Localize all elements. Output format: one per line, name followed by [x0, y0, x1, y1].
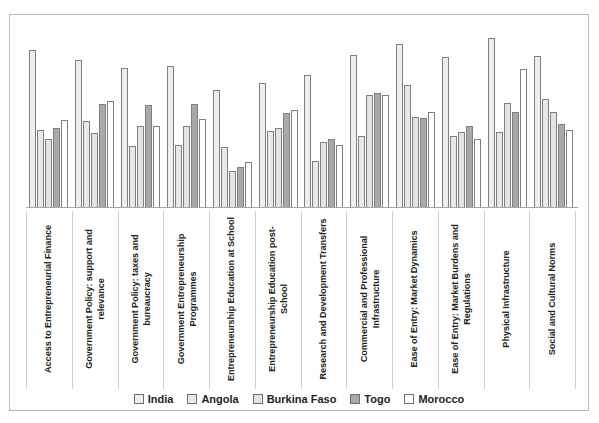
- bar: [420, 118, 427, 208]
- bar: [83, 121, 90, 208]
- category-label: Ease of Entry: Market Burdens and Regula…: [450, 213, 473, 385]
- bar: [474, 139, 481, 208]
- plot-area: [26, 29, 576, 208]
- bar: [45, 139, 52, 208]
- legend-item[interactable]: Morocco: [404, 393, 464, 405]
- bar: [404, 85, 411, 208]
- bar-group: [301, 29, 347, 208]
- category-tick: Research and Development Transfers: [301, 211, 347, 389]
- legend-label: India: [148, 393, 174, 405]
- bar: [37, 130, 44, 208]
- bar: [450, 136, 457, 208]
- bar: [396, 44, 403, 208]
- bar: [350, 55, 357, 208]
- bar-group: [163, 29, 209, 208]
- legend-item[interactable]: Togo: [350, 393, 390, 405]
- bar: [512, 112, 519, 208]
- bar-group: [118, 29, 164, 208]
- bar: [312, 161, 319, 208]
- bar: [53, 128, 60, 208]
- category-label: Research and Development Transfers: [318, 213, 330, 385]
- category-tick: Entrepreneurship Education at School: [209, 211, 255, 389]
- bar: [99, 104, 106, 208]
- bar: [191, 104, 198, 208]
- bar: [458, 132, 465, 208]
- bar-group: [484, 29, 530, 208]
- category-tick: Social and Cultural Norms: [529, 211, 576, 389]
- bar: [320, 142, 327, 208]
- category-label: Government Entrepreneurship Programmes: [175, 213, 198, 385]
- category-tick: Ease of Entry: Market Burdens and Regula…: [438, 211, 484, 389]
- bar-group: [438, 29, 484, 208]
- bar: [504, 103, 511, 208]
- category-label: Commercial and Professional Infrastructu…: [358, 213, 381, 385]
- bar: [358, 136, 365, 208]
- bar: [328, 139, 335, 208]
- bar: [291, 110, 298, 208]
- bar: [428, 112, 435, 208]
- bar: [496, 132, 503, 208]
- legend-swatch-icon: [404, 394, 414, 404]
- bar: [412, 117, 419, 208]
- bar: [466, 126, 473, 208]
- category-tick: Access to Entrepreneurial Finance: [26, 211, 72, 389]
- category-tick: Ease of Entry: Market Dynamics: [392, 211, 438, 389]
- bar: [61, 120, 68, 208]
- bar: [91, 133, 98, 208]
- bar: [304, 75, 311, 208]
- bar: [245, 162, 252, 208]
- bar: [183, 126, 190, 208]
- legend-swatch-icon: [187, 394, 197, 404]
- bar: [336, 145, 343, 208]
- bar: [542, 99, 549, 208]
- category-tick: Government Entrepreneurship Programmes: [163, 211, 209, 389]
- category-label: Physical Infrastructure: [501, 213, 513, 385]
- bar: [558, 124, 565, 208]
- bar: [129, 146, 136, 208]
- category-label: Social and Cultural Norms: [547, 213, 559, 385]
- legend-label: Togo: [364, 393, 390, 405]
- bar-group: [393, 29, 439, 208]
- legend-item[interactable]: Burkina Faso: [253, 393, 337, 405]
- bar: [382, 95, 389, 208]
- category-tick: Physical Infrastructure: [484, 211, 530, 389]
- bar: [366, 95, 373, 208]
- category-tick: Government Policy: support and relevance: [72, 211, 118, 389]
- legend-label: Morocco: [418, 393, 464, 405]
- bar-group: [255, 29, 301, 208]
- bar: [229, 171, 236, 209]
- category-label: Entrepreneurship Education post-School: [267, 213, 290, 385]
- legend-swatch-icon: [134, 394, 144, 404]
- category-tick: Commercial and Professional Infrastructu…: [346, 211, 392, 389]
- bar: [275, 128, 282, 208]
- bar: [137, 126, 144, 208]
- bar: [167, 66, 174, 208]
- bar: [107, 101, 114, 208]
- chart-page: Access to Entrepreneurial FinanceGovernm…: [0, 0, 599, 423]
- category-label: Ease of Entry: Market Dynamics: [410, 213, 422, 385]
- bar: [175, 145, 182, 208]
- bar-group: [72, 29, 118, 208]
- bar: [75, 60, 82, 208]
- bar: [534, 56, 541, 208]
- bar: [259, 83, 266, 208]
- bar: [199, 119, 206, 208]
- bar: [29, 50, 36, 208]
- bar-groups: [26, 29, 576, 208]
- category-label: Entrepreneurship Education at School: [227, 213, 239, 385]
- bar-group: [347, 29, 393, 208]
- bar: [267, 131, 274, 208]
- chart-legend: IndiaAngolaBurkina FasoTogoMorocco: [10, 393, 588, 405]
- category-label: Government Policy: support and relevance: [84, 213, 107, 385]
- bar: [221, 147, 228, 208]
- legend-item[interactable]: Angola: [187, 393, 238, 405]
- category-label: Access to Entrepreneurial Finance: [44, 213, 56, 385]
- legend-item[interactable]: India: [134, 393, 174, 405]
- bar: [442, 57, 449, 208]
- bar: [566, 130, 573, 208]
- legend-swatch-icon: [253, 394, 263, 404]
- legend-swatch-icon: [350, 394, 360, 404]
- chart-frame: Access to Entrepreneurial FinanceGovernm…: [9, 14, 589, 411]
- bar: [153, 126, 160, 208]
- bar: [213, 90, 220, 208]
